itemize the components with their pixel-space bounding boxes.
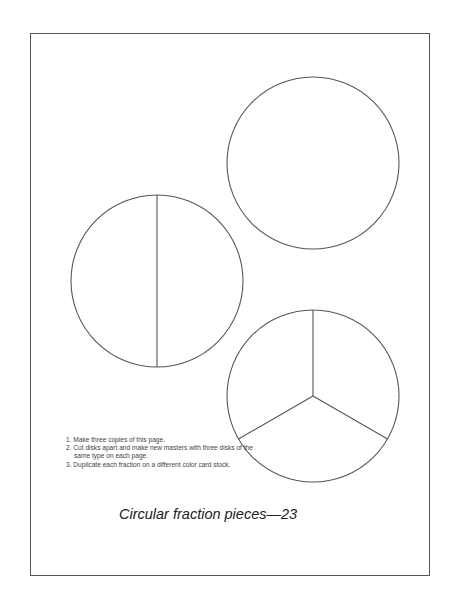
instructions-list: 1. Make three copies of this page. 2. Cu…: [66, 436, 266, 469]
halves-disk: [71, 195, 243, 367]
instruction-item: 1. Make three copies of this page.: [66, 436, 266, 444]
thirds-divider-line: [313, 396, 388, 439]
fraction-disks: [0, 0, 460, 591]
page-title: Circular fraction pieces—23: [119, 506, 297, 522]
whole-disk: [227, 77, 399, 249]
instruction-item: 3. Duplicate each fraction on a differen…: [66, 461, 266, 469]
instruction-item: 2. Cut disks apart and make new masters …: [66, 444, 266, 460]
thirds-divider-line: [239, 396, 314, 439]
